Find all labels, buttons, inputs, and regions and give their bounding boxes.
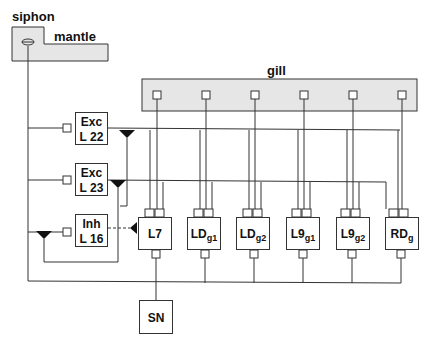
motor-neuron-rdg: RDg (385, 217, 419, 250)
motor-neuron-l9g2: L9g2 (336, 217, 370, 250)
siphon-label: siphon (12, 10, 55, 23)
motor-neuron-l7: L7 (138, 217, 172, 250)
aplysia-gill-withdrawal-circuit-diagram: siphon mantle gill Exc L 22 Exc L 23 Inh… (0, 0, 429, 349)
interneuron-inh-l16: Inh L 16 (75, 214, 108, 247)
mantle-label: mantle (54, 30, 96, 43)
motor-neuron-l9g1: L9g1 (286, 217, 320, 250)
interneuron-exc-l23: Exc L 23 (75, 163, 108, 196)
motor-neuron-ldg2: LDg2 (236, 217, 270, 250)
gill-tissue (142, 79, 417, 111)
interneuron-exc-l22: Exc L 22 (75, 112, 108, 145)
sensory-neuron-sn: SN (139, 300, 173, 334)
motor-neuron-ldg1: LDg1 (187, 217, 221, 250)
circuit-wiring (0, 0, 429, 349)
gill-label: gill (267, 64, 286, 77)
